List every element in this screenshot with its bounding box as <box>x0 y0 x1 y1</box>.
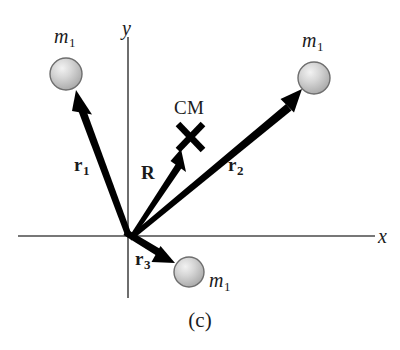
vector-label-r2-subscript: 2 <box>236 163 243 178</box>
mass-label-upper-left-subscript: 1 <box>68 35 75 50</box>
mass-sphere-upper-left <box>50 58 82 90</box>
figure-canvas <box>0 0 400 350</box>
mass-label-lower-letter: m <box>209 269 223 291</box>
mass-label-upper-right: m1 <box>302 30 323 53</box>
vector-label-R-subscript <box>155 171 156 186</box>
mass-label-lower-subscript: 1 <box>223 279 230 294</box>
cm-label: CM <box>174 98 204 117</box>
mass-sphere-lower <box>174 257 204 287</box>
vector-label-R-letter: R <box>141 162 155 183</box>
mass-label-lower: m1 <box>209 270 230 293</box>
vector-label-r3: r3 <box>135 249 150 271</box>
mass-sphere-upper-right <box>298 62 330 94</box>
vector-label-r1: r1 <box>74 155 89 177</box>
cm-marker-icon <box>178 124 203 150</box>
mass-label-upper-left: m1 <box>54 26 75 49</box>
mass-label-upper-right-letter: m <box>302 29 316 51</box>
vector-label-R: R <box>141 163 155 185</box>
vector-label-r3-subscript: 3 <box>143 257 150 272</box>
figure-caption: (c) <box>0 310 400 331</box>
x-axis-label: x <box>378 226 387 246</box>
vector-R-arrow <box>130 149 186 238</box>
figure-container: x y m1 m1 m1 r1 R r2 r3 CM (c) <box>0 0 400 350</box>
mass-label-upper-left-letter: m <box>54 25 68 47</box>
y-axis-label: y <box>122 18 131 38</box>
vector-label-r2: r2 <box>228 155 243 177</box>
mass-label-upper-right-subscript: 1 <box>316 39 323 54</box>
vector-label-r1-subscript: 1 <box>82 163 89 178</box>
